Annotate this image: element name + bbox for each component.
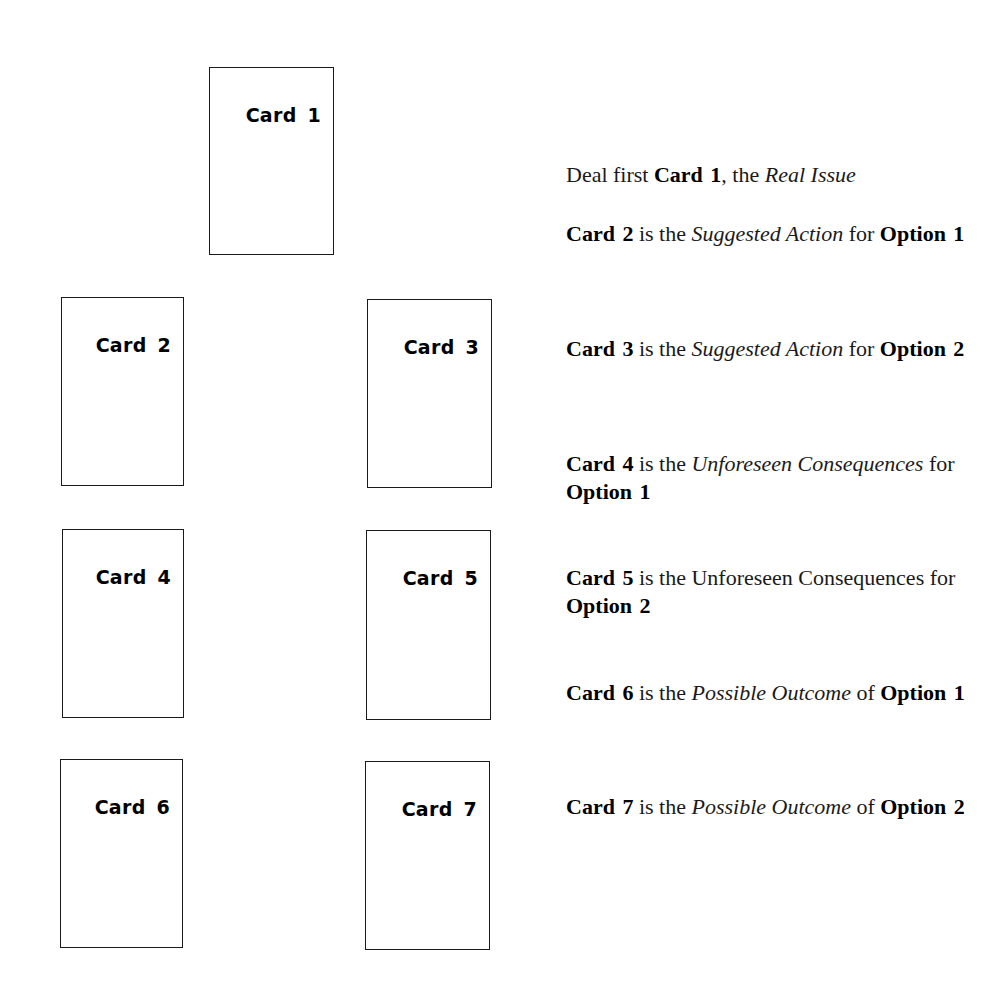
description-segment: Suggested Action bbox=[691, 336, 843, 361]
description-segment: Possible Outcome bbox=[691, 794, 850, 819]
description-segment: of bbox=[851, 794, 880, 819]
card-label: Card 4 bbox=[96, 566, 171, 588]
description-segment: Option 1 bbox=[566, 479, 651, 504]
description-segment: Card 4 bbox=[566, 451, 633, 476]
description-segment: Card 1 bbox=[654, 162, 721, 187]
description-segment: Unforeseen Consequences bbox=[691, 451, 923, 476]
description-segment: of bbox=[851, 680, 880, 705]
description-segment: Deal first bbox=[566, 162, 654, 187]
description-segment: Card 3 bbox=[566, 336, 633, 361]
card-label: Card 1 bbox=[246, 104, 321, 126]
description-card-6: Card 6 is the Possible Outcome of Option… bbox=[566, 679, 986, 707]
card-7: Card 7 bbox=[365, 761, 490, 950]
description-segment: for bbox=[923, 451, 954, 476]
description-segment: Option 1 bbox=[880, 680, 965, 705]
description-segment: Option 2 bbox=[566, 593, 651, 618]
description-card-4: Card 4 is the Unforeseen Consequences fo… bbox=[566, 450, 986, 506]
description-segment: Option 2 bbox=[880, 336, 965, 361]
description-segment: Real Issue bbox=[765, 162, 856, 187]
description-segment: , the bbox=[721, 162, 764, 187]
description-segment: Option 1 bbox=[880, 221, 965, 246]
card-3: Card 3 bbox=[367, 299, 492, 488]
description-card-3: Card 3 is the Suggested Action for Optio… bbox=[566, 335, 986, 363]
description-card-5: Card 5 is the Unforeseen Consequences fo… bbox=[566, 564, 986, 620]
description-segment: is the bbox=[633, 336, 691, 361]
card-6: Card 6 bbox=[60, 759, 183, 948]
description-segment: Card 2 bbox=[566, 221, 633, 246]
description-segment: is the bbox=[633, 680, 691, 705]
card-label: Card 6 bbox=[95, 796, 170, 818]
description-segment: is the bbox=[633, 451, 691, 476]
description-segment: Card 7 bbox=[566, 794, 633, 819]
description-segment: Possible Outcome bbox=[691, 680, 850, 705]
description-card-7: Card 7 is the Possible Outcome of Option… bbox=[566, 793, 986, 821]
card-5: Card 5 bbox=[366, 530, 491, 720]
description-segment: Suggested Action bbox=[691, 221, 843, 246]
description-segment: is the Unforeseen Consequences for bbox=[633, 565, 955, 590]
card-4: Card 4 bbox=[62, 529, 184, 718]
card-label: Card 2 bbox=[96, 334, 171, 356]
description-segment: for bbox=[843, 336, 880, 361]
description-segment: is the bbox=[633, 221, 691, 246]
description-segment: Card 6 bbox=[566, 680, 633, 705]
description-segment: for bbox=[843, 221, 880, 246]
card-label: Card 5 bbox=[403, 567, 478, 589]
description-segment: Card 5 bbox=[566, 565, 633, 590]
description-card-1: Deal first Card 1, the Real Issue bbox=[566, 161, 986, 189]
description-card-2: Card 2 is the Suggested Action for Optio… bbox=[566, 220, 986, 248]
description-segment: Option 2 bbox=[880, 794, 965, 819]
description-segment: is the bbox=[633, 794, 691, 819]
card-label: Card 7 bbox=[402, 798, 477, 820]
card-label: Card 3 bbox=[404, 336, 479, 358]
card-2: Card 2 bbox=[61, 297, 184, 486]
card-1: Card 1 bbox=[209, 67, 334, 255]
